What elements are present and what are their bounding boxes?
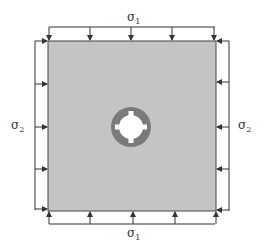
bottom-load [49, 212, 216, 224]
left-load [35, 41, 47, 210]
label-sigma1-top: σ1 [127, 10, 140, 26]
stress-diagram [0, 0, 263, 250]
label-sigma1-bottom: σ1 [127, 226, 140, 242]
right-load [217, 41, 229, 211]
label-sigma2-left: σ2 [11, 118, 24, 134]
top-load [49, 27, 215, 40]
hole [119, 115, 143, 139]
label-sigma2-right: σ2 [238, 118, 251, 134]
